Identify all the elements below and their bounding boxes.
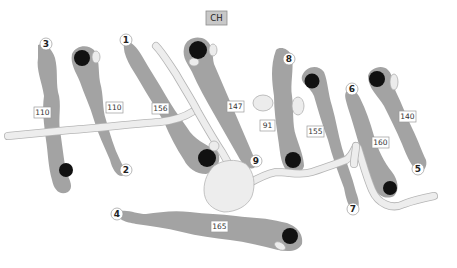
distance-label-hole-7: 155: [307, 126, 324, 137]
tee-hole-3[interactable]: 3: [40, 38, 52, 50]
distance-label-hole-4: 165: [211, 221, 228, 232]
sand-trap: [292, 97, 304, 115]
tee-hole-5[interactable]: 5: [412, 163, 424, 175]
sand-trap: [189, 58, 199, 66]
hole-number: 2: [123, 165, 129, 175]
distance-label-hole-1: 156: [152, 103, 169, 114]
hole-number: 7: [350, 204, 356, 214]
hole-number: 3: [43, 39, 49, 49]
svg-text:160: 160: [373, 138, 388, 147]
hole-number: 9: [253, 156, 259, 166]
green-hole-1: [198, 149, 216, 167]
svg-text:156: 156: [153, 104, 168, 113]
svg-text:110: 110: [107, 103, 122, 112]
sand-trap: [209, 44, 217, 56]
hole-number: 1: [123, 35, 129, 45]
clubhouse-label: CH: [210, 13, 222, 23]
green-hole-6: [383, 181, 397, 195]
green-hole-3: [59, 163, 73, 177]
clubhouse[interactable]: CH: [206, 11, 227, 25]
tee-hole-6[interactable]: 6: [346, 83, 358, 95]
hole-number: 6: [349, 84, 355, 94]
svg-text:91: 91: [263, 121, 273, 130]
sand-trap: [209, 141, 219, 151]
distance-label-hole-3: 110: [34, 107, 51, 118]
green-hole-4: [282, 228, 298, 244]
tee-hole-8[interactable]: 8: [283, 53, 295, 65]
distance-label-hole-6: 160: [372, 137, 389, 148]
green-hole-8: [285, 152, 301, 168]
svg-text:147: 147: [228, 102, 243, 111]
tee-hole-1[interactable]: 1: [120, 34, 132, 46]
tee-hole-9[interactable]: 9: [250, 155, 262, 167]
svg-text:155: 155: [308, 127, 323, 136]
hole-number: 4: [114, 209, 120, 219]
svg-text:165: 165: [212, 222, 227, 231]
tee-hole-2[interactable]: 2: [120, 164, 132, 176]
hole-number: 8: [286, 54, 292, 64]
green-hole-5: [369, 71, 385, 87]
distance-label-hole-8: 91: [260, 120, 275, 131]
distance-label-hole-2: 110: [106, 102, 123, 113]
hole-number: 5: [415, 164, 421, 174]
sand-trap: [92, 51, 100, 63]
sand-trap: [253, 95, 273, 111]
svg-text:110: 110: [35, 108, 50, 117]
sand-trap: [390, 74, 398, 90]
tee-hole-7[interactable]: 7: [347, 203, 359, 215]
green-hole-7: [305, 74, 320, 89]
green-hole-9: [189, 41, 207, 59]
green-hole-2: [74, 50, 90, 66]
distance-label-hole-5: 140: [399, 111, 416, 122]
tee-hole-4[interactable]: 4: [111, 208, 123, 220]
golf-course-map: CH 1 2 3 4 5 6 7 8 9 110 11: [0, 0, 457, 268]
svg-text:140: 140: [400, 112, 415, 121]
distance-label-hole-9: 147: [227, 101, 244, 112]
